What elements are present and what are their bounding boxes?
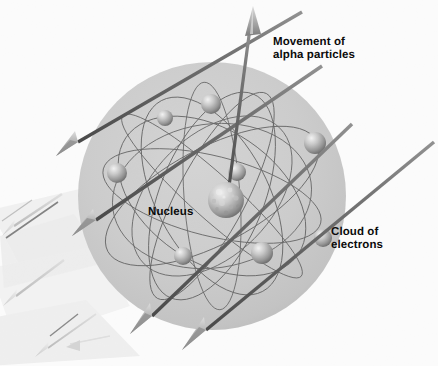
electron-sphere — [174, 247, 192, 265]
label-movement-of-alpha-particles: Movement of alpha particles — [273, 36, 355, 61]
electron-sphere — [157, 110, 173, 126]
electron-sphere — [201, 94, 221, 114]
label-nucleus: Nucleus — [148, 206, 193, 219]
electron-sphere — [107, 163, 127, 183]
diagram-canvas — [0, 0, 438, 366]
rutherford-scattering-figure: Movement of alpha particles Nucleus Clou… — [0, 0, 438, 366]
label-cloud-of-electrons: Cloud of electrons — [331, 226, 383, 251]
nucleus-group — [208, 182, 244, 218]
electron-sphere — [251, 242, 273, 264]
